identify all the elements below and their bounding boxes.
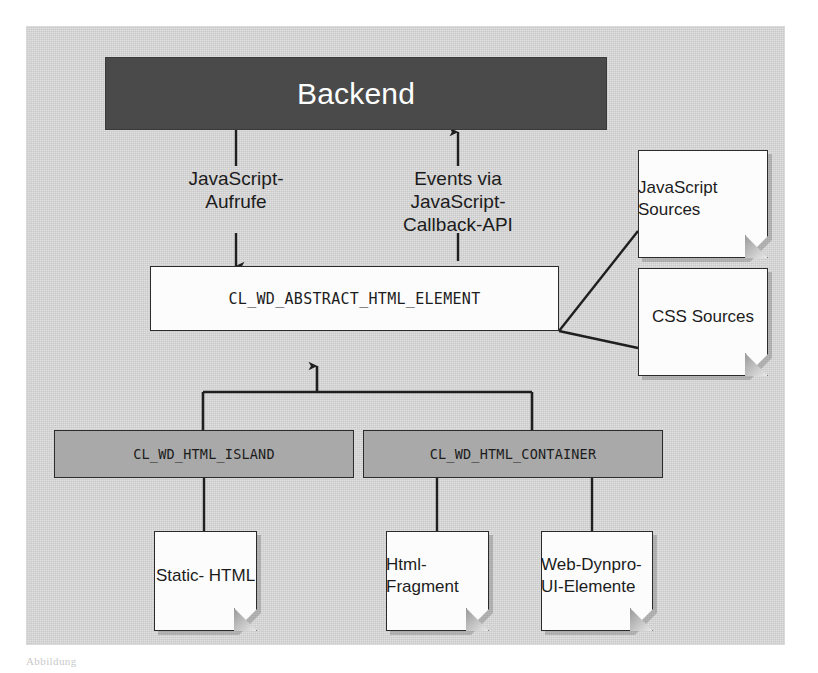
html-fragment-label: Html- Fragment — [386, 531, 489, 631]
edge-label-javascript-calls: JavaScript- Aufrufe — [146, 168, 326, 214]
html-fragment-note[interactable]: Html- Fragment — [386, 531, 489, 631]
css-sources-label: CSS Sources — [638, 268, 768, 376]
backend-label: Backend — [297, 77, 415, 111]
ui-elements-label: Web-Dynpro- UI-Elemente — [541, 531, 653, 631]
javascript-sources-note[interactable]: JavaScript Sources — [638, 150, 768, 258]
abstract-class-box[interactable]: CL_WD_ABSTRACT_HTML_ELEMENT — [150, 266, 559, 331]
css-sources-note[interactable]: CSS Sources — [638, 268, 768, 376]
figure-caption: Abbildung — [26, 655, 785, 671]
backend-box[interactable]: Backend — [105, 57, 607, 130]
static-html-note[interactable]: Static- HTML — [154, 531, 257, 631]
abstract-class-label: CL_WD_ABSTRACT_HTML_ELEMENT — [229, 290, 481, 308]
javascript-sources-label: JavaScript Sources — [638, 150, 768, 258]
static-html-label: Static- HTML — [154, 531, 257, 631]
diagram-figure: Backend JavaScript- Aufrufe Events via J… — [26, 26, 785, 645]
subclass-box-html-island[interactable]: CL_WD_HTML_ISLAND — [54, 430, 354, 478]
subclass-label-html-container: CL_WD_HTML_CONTAINER — [430, 446, 597, 462]
subclass-label-html-island: CL_WD_HTML_ISLAND — [133, 446, 275, 462]
subclass-box-html-container[interactable]: CL_WD_HTML_CONTAINER — [363, 430, 663, 478]
edge-label-events-callback-api: Events via JavaScript- Callback-API — [368, 168, 548, 236]
ui-elements-note[interactable]: Web-Dynpro- UI-Elemente — [541, 531, 653, 631]
